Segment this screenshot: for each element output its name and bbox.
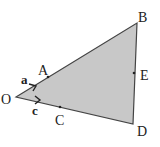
label-B: B bbox=[138, 10, 147, 25]
point-C-marker bbox=[59, 106, 62, 109]
triangle-diagram: O A B C D E a c bbox=[0, 0, 160, 147]
label-O: O bbox=[1, 92, 11, 107]
point-E-marker bbox=[133, 72, 136, 75]
vector-c-label: c bbox=[32, 103, 38, 118]
label-C: C bbox=[55, 113, 64, 128]
vector-a-label: a bbox=[21, 72, 28, 87]
label-A: A bbox=[38, 63, 49, 78]
label-D: D bbox=[137, 124, 147, 139]
label-E: E bbox=[140, 68, 149, 83]
